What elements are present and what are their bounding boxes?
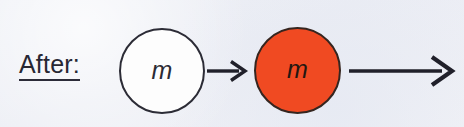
short-arrow-icon — [205, 56, 253, 86]
orange-mass-circle: m — [254, 27, 341, 114]
white-mass-circle-label: m — [152, 58, 173, 83]
long-arrow-icon — [348, 52, 460, 90]
physics-diagram-canvas: After: m m — [0, 0, 464, 127]
white-mass-circle: m — [119, 28, 205, 114]
orange-mass-circle-label: m — [287, 57, 308, 82]
after-label: After: — [19, 50, 80, 81]
